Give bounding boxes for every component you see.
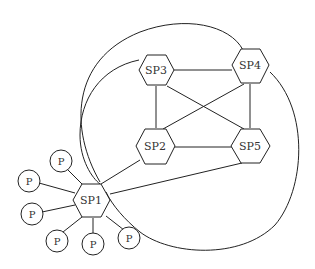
edge-sp1-sp5 <box>110 163 242 194</box>
super-peer-sp4[interactable]: SP4 <box>232 49 269 83</box>
super-peer-sp2[interactable]: SP2 <box>136 129 175 164</box>
peer-node-4[interactable]: P <box>46 230 68 252</box>
peer-label: P <box>54 236 61 247</box>
sp1-label: SP1 <box>80 194 102 207</box>
peer-label: P <box>29 209 36 220</box>
edge-sp1-p6 <box>106 216 124 230</box>
peer-label: P <box>126 233 133 244</box>
edge-sp1-sp3-curve <box>80 60 139 184</box>
peer-node-1[interactable]: P <box>50 150 72 172</box>
super-peer-sp5[interactable]: SP5 <box>231 129 270 163</box>
sp2-label: SP2 <box>144 140 166 153</box>
peer-node-5[interactable]: P <box>82 233 104 255</box>
peer-label: P <box>90 239 97 250</box>
sp3-label: SP3 <box>145 64 167 77</box>
peer-node-3[interactable]: P <box>21 203 43 225</box>
network-diagram: SP3 SP4 SP2 SP5 SP1 P P P P P P <box>0 0 315 269</box>
edge-sp3-sp5 <box>167 86 244 129</box>
sp4-label: SP4 <box>239 59 261 72</box>
edge-sp1-p3 <box>42 205 75 212</box>
edge-sp1-p4 <box>63 217 82 232</box>
edge-sp4-sp1-loop <box>106 72 299 250</box>
peer-node-6[interactable]: P <box>118 227 140 249</box>
super-peer-sp3[interactable]: SP3 <box>139 55 174 85</box>
edge-sp1-p2 <box>39 183 75 193</box>
peer-node-2[interactable]: P <box>18 170 40 192</box>
edge-sp1-sp2 <box>101 160 140 184</box>
peer-label: P <box>26 176 33 187</box>
super-peer-sp1[interactable]: SP1 <box>73 184 110 217</box>
edge-sp1-p1 <box>68 170 82 184</box>
peer-label: P <box>58 156 65 167</box>
sp5-label: SP5 <box>239 140 261 153</box>
